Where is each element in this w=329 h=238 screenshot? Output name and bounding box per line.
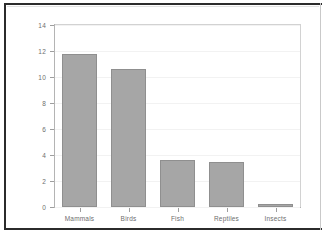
- y-tick-mark: [50, 51, 54, 52]
- bar-reptiles: [209, 162, 245, 208]
- y-tick-label-wrap: 2: [10, 178, 46, 185]
- y-tick-mark: [50, 25, 54, 26]
- y-tick-mark: [50, 129, 54, 130]
- y-tick-label-wrap: 0: [10, 204, 46, 211]
- bar-fish: [160, 160, 196, 207]
- y-tick-label-wrap: 6: [10, 126, 46, 133]
- frame-border-top: [4, 3, 322, 5]
- frame-inner-shadow: [7, 6, 319, 7]
- gridline: [55, 25, 300, 26]
- x-tick-label: Fish: [153, 215, 202, 223]
- bar-chart: 02468101214 MammalsBirdsFishReptilesInse…: [10, 10, 318, 226]
- plot-area: [55, 25, 300, 207]
- x-tick-label: Reptiles: [202, 215, 251, 223]
- x-tick-label: Birds: [104, 215, 153, 223]
- frame-border-left: [4, 3, 6, 230]
- y-tick-mark: [50, 207, 54, 208]
- y-tick-label: 6: [16, 126, 46, 133]
- y-tick-label-wrap: 14: [10, 22, 46, 29]
- frame-border-bottom: [4, 228, 322, 230]
- y-tick-label-wrap: 12: [10, 48, 46, 55]
- y-tick-label: 4: [16, 152, 46, 159]
- x-tick-mark: [80, 208, 81, 212]
- x-tick-label: Mammals: [55, 215, 104, 223]
- y-tick-label-wrap: 10: [10, 74, 46, 81]
- x-tick-mark: [227, 208, 228, 212]
- y-tick-mark: [50, 155, 54, 156]
- y-tick-label: 8: [16, 100, 46, 107]
- y-tick-label: 10: [16, 74, 46, 81]
- y-tick-label-wrap: 8: [10, 100, 46, 107]
- y-tick-label-wrap: 4: [10, 152, 46, 159]
- y-tick-label: 0: [16, 204, 46, 211]
- y-tick-label: 2: [16, 178, 46, 185]
- plot-spine-right: [300, 24, 301, 208]
- y-tick-label: 14: [16, 22, 46, 29]
- gridline: [55, 51, 300, 52]
- bar-mammals: [62, 54, 98, 207]
- bar-birds: [111, 69, 147, 207]
- y-tick-mark: [50, 77, 54, 78]
- bar-insects: [258, 204, 294, 207]
- y-tick-label: 12: [16, 48, 46, 55]
- x-tick-label: Insects: [251, 215, 300, 223]
- figure-frame: 02468101214 MammalsBirdsFishReptilesInse…: [0, 0, 329, 238]
- y-tick-mark: [50, 181, 54, 182]
- x-tick-mark: [276, 208, 277, 212]
- x-tick-mark: [178, 208, 179, 212]
- frame-border-right: [320, 3, 321, 230]
- y-tick-mark: [50, 103, 54, 104]
- x-tick-mark: [129, 208, 130, 212]
